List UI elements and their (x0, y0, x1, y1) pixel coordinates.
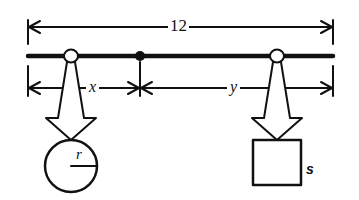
overall-length-label: 12 (168, 17, 189, 34)
square-load-icon (253, 140, 301, 185)
radius-label: r (76, 147, 82, 162)
lever-diagram: 12 x y r s (0, 0, 359, 200)
left-support-ring-icon (64, 50, 78, 63)
segment-x-label: x (86, 79, 99, 95)
segment-y-label: y (227, 79, 240, 95)
right-support-ring-icon (270, 50, 284, 63)
left-load-arrow-icon (46, 62, 96, 140)
fulcrum-dot-icon (135, 51, 145, 61)
right-load-arrow-icon (252, 62, 302, 140)
square-side-label: s (306, 162, 314, 176)
